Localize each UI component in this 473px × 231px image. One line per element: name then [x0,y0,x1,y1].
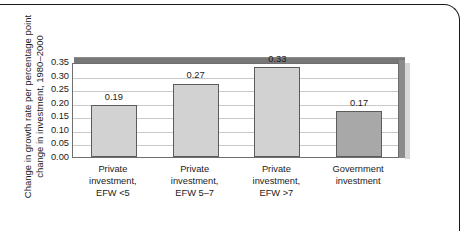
bar-series: 0.190.270.330.17 [73,64,398,157]
y-axis-tick-labels: 0.350.300.250.200.150.100.050.00 [38,57,69,159]
bar[interactable] [91,105,137,157]
x-axis-category-label: Private investment, EFW >7 [236,163,318,200]
y-tick-label: 0.35 [38,58,69,67]
y-tick-label: 0.30 [38,72,69,81]
bar-value-label: 0.33 [240,55,314,64]
bar-slot: 0.19 [91,64,137,157]
bar-slot: 0.33 [254,64,300,157]
bar-chart: Change in growth rate per percentage poi… [0,0,473,231]
y-tick-label: 0.10 [38,126,69,135]
bar-value-label: 0.27 [159,71,233,80]
bar-slot: 0.17 [336,64,382,157]
bar[interactable] [173,84,219,157]
x-axis-category-label: Government investment [317,163,399,187]
plot-right-shadow-3d [399,60,405,158]
y-tick-label: 0.20 [38,99,69,108]
bar[interactable] [336,111,382,157]
bar-value-label: 0.17 [322,99,396,108]
y-tick-label: 0.15 [38,113,69,122]
y-tick-label: 0.00 [38,153,69,162]
y-tick-label: 0.25 [38,86,69,95]
x-axis-category-label: Private investment, EFW 5–7 [154,163,236,200]
bar-slot: 0.27 [173,64,219,157]
x-axis-category-label: Private investment, EFW <5 [72,163,154,200]
plot-right-shadow-soft [405,63,410,159]
bar-value-label: 0.19 [77,93,151,102]
bar[interactable] [254,67,300,157]
y-tick-label: 0.05 [38,140,69,149]
plot-area: 0.190.270.330.17 [72,63,399,158]
x-axis-category-labels: Private investment, EFW <5Private invest… [72,163,399,223]
